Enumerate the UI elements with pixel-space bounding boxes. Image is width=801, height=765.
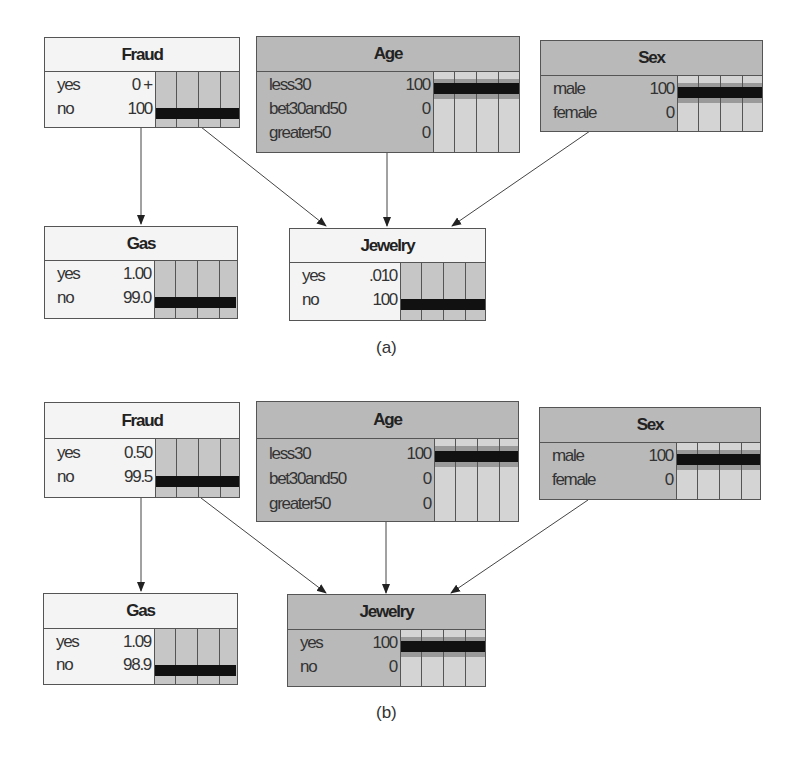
state-row[interactable]: no100 <box>45 99 155 123</box>
state-row[interactable]: male100 <box>540 446 676 470</box>
belief-bars <box>155 72 239 127</box>
belief-bars <box>434 439 518 521</box>
node-title: Jewelry <box>290 229 485 263</box>
state-row[interactable]: greater500 <box>257 494 434 518</box>
state-row[interactable]: yes1.09 <box>44 632 154 656</box>
panel-b: Fraud yes0.50 no99.5 Age less30100 bet30… <box>0 365 801 745</box>
panel-a: Fraud yes0 + no100 Age less30100 bet30an… <box>0 0 801 380</box>
state-row[interactable]: yes.010 <box>290 266 400 290</box>
belief-bars <box>433 72 519 152</box>
state-row[interactable]: yes0.50 <box>45 443 155 467</box>
state-row[interactable]: less30100 <box>257 75 433 99</box>
state-row[interactable]: less30100 <box>257 444 434 468</box>
state-row[interactable]: no0 <box>288 657 400 681</box>
state-row[interactable]: male100 <box>541 79 677 103</box>
belief-bars <box>676 443 760 499</box>
node-title: Sex <box>541 41 762 76</box>
node-title: Age <box>257 402 518 439</box>
state-row[interactable]: no99.5 <box>45 467 155 491</box>
belief-bar-less30 <box>434 83 519 94</box>
node-title: Fraud <box>45 38 239 72</box>
belief-bar-male <box>678 87 762 98</box>
belief-bar-yes <box>401 641 485 652</box>
state-row[interactable]: yes1.00 <box>45 264 154 288</box>
belief-bar-no <box>401 299 485 310</box>
node-fraud[interactable]: Fraud yes0 + no100 <box>44 37 240 128</box>
belief-bars <box>154 629 237 684</box>
node-title: Sex <box>540 408 760 443</box>
belief-bars <box>154 261 237 318</box>
node-title: Gas <box>45 227 237 261</box>
node-age[interactable]: Age less30100 bet30and500 greater500 <box>256 36 520 153</box>
node-sex[interactable]: Sex male100 female0 <box>540 40 763 132</box>
belief-bar-male <box>677 454 760 465</box>
state-row[interactable]: bet30and500 <box>257 469 434 493</box>
node-fraud[interactable]: Fraud yes0.50 no99.5 <box>44 402 240 498</box>
belief-bar-no <box>155 665 236 676</box>
caption-a: (a) <box>376 338 397 358</box>
state-row[interactable]: no98.9 <box>44 655 154 679</box>
state-row[interactable]: yes100 <box>288 633 400 657</box>
belief-bar-less30 <box>435 451 518 462</box>
belief-bars <box>400 263 485 320</box>
state-row[interactable]: no100 <box>290 290 400 314</box>
node-jewelry[interactable]: Jewelry yes100 no0 <box>287 594 486 687</box>
node-gas[interactable]: Gas yes1.00 no99.0 <box>44 226 238 319</box>
belief-bar-no <box>155 297 236 308</box>
node-title: Jewelry <box>288 595 485 630</box>
state-row[interactable]: greater500 <box>257 123 433 147</box>
node-jewelry[interactable]: Jewelry yes.010 no100 <box>289 228 486 321</box>
state-row[interactable]: female0 <box>541 103 677 127</box>
belief-bars <box>155 439 239 497</box>
belief-bar-no <box>156 476 239 487</box>
node-age[interactable]: Age less30100 bet30and500 greater500 <box>256 401 519 522</box>
state-row[interactable]: no99.0 <box>45 288 154 312</box>
state-row[interactable]: bet30and500 <box>257 99 433 123</box>
node-title: Fraud <box>45 403 239 439</box>
node-title: Age <box>257 37 519 72</box>
state-row[interactable]: yes0 + <box>45 75 155 99</box>
belief-bars <box>400 630 485 686</box>
node-title: Gas <box>44 594 237 629</box>
caption-b: (b) <box>376 703 397 723</box>
node-sex[interactable]: Sex male100 female0 <box>539 407 761 500</box>
belief-bars <box>677 76 762 131</box>
node-gas[interactable]: Gas yes1.09 no98.9 <box>43 593 238 685</box>
belief-bar-no <box>156 108 239 119</box>
state-row[interactable]: female0 <box>540 470 676 494</box>
